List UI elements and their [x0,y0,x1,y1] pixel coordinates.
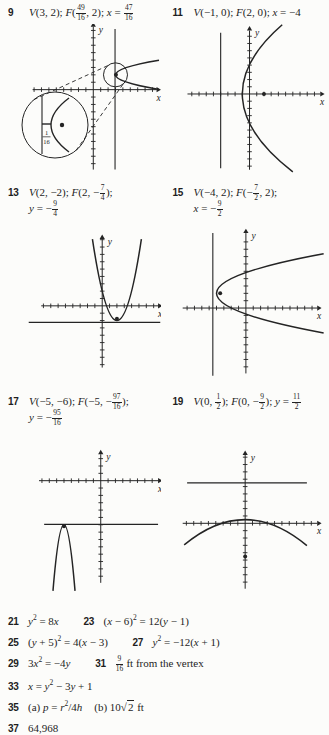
answers-line-37: 3764,968 [8,721,329,735]
math-exponent: 2 [64,699,68,708]
answer-item-11: 11 V(−1, 0); F(2, 0); x = −4 [173,5,329,20]
answer-item-25: 25(y + 5)2 = 4(x − 3) [8,636,108,648]
math-exponent: 2 [157,634,161,643]
math-exponent: 2 [33,613,37,622]
fraction-denominator: 2 [259,403,265,410]
x-axis-label: x [157,309,161,319]
math-variable: V [194,395,201,407]
answer-item-23: 23(x − 6)2 = 12(y − 1) [84,615,189,627]
math-variable: x [107,6,112,18]
fraction-denominator: 16 [116,665,124,672]
parabola-curve [53,525,75,591]
math-fraction: 4716 [124,5,134,21]
fraction-denominator: 2 [215,403,221,410]
math-variable: F [78,395,85,407]
graph-11-svg: xy [168,24,326,174]
y-axis-label: y [250,231,256,241]
answer-math-23: (x − 6)2 = 12(y − 1) [104,615,189,627]
x-axis-label: x [319,97,325,107]
focus-dot [62,524,66,528]
problem-number-19: 19 [173,394,190,409]
answers-line-35: 35(a) p = r2/4h(b) 10√2 ft [8,700,329,714]
problem-number-35: 35 [8,700,22,714]
answer-math-17-line2: y = −9516 [29,410,129,426]
answer-item-35: 35(a) p = r2/4h(b) 10√2 ft [8,701,144,713]
answer-math-27: y2 = −12(x + 1) [153,636,220,648]
x-axis-label: x [156,93,162,103]
math-variable: x [54,615,59,627]
graph-9: xy116 [3,24,161,174]
inset-focus-dot [60,123,64,127]
math-variable: y [66,657,71,669]
answer-math-13-line2: y = −94 [29,201,113,217]
math-variable: y [163,615,168,627]
math-variable: h [77,701,83,713]
math-variable: V [29,395,36,407]
x-axis-arrow [320,91,324,96]
graphs-row-3: xy xy [0,441,329,607]
math-variable: V [29,186,36,198]
problem-number-33: 33 [8,679,22,693]
y-axis-arrow [243,229,248,233]
math-variable: F [72,186,79,198]
math-variable: F [236,6,243,18]
graph-13-svg: xy [3,225,161,387]
answer-math-21: y2 = 8x [28,615,59,627]
graph-19-svg: xy [168,441,326,603]
y-axis-label: y [249,453,255,463]
answer-math-19: V(0, 12); F(0, −92); y = 112 [194,394,302,410]
x-axis-arrow [158,303,161,308]
y-axis-arrow [247,26,252,30]
math-variable: x [82,636,87,648]
math-fraction: 74 [100,185,106,201]
answers-row-3: 17 V(−5, −6); F(−5, −9716); y = −9516 19… [0,394,329,426]
parabola-curve [216,254,323,333]
x-axis-arrow [317,521,321,526]
math-fraction: 916 [116,656,124,672]
answers-line-29-31: 293x2 = −4y 31916 ft from the vertex [8,656,329,672]
x-axis-arrow [158,478,161,483]
focus-dot [262,92,266,96]
answer-math-17-line1: V(−5, −6); F(−5, −9716); [29,394,129,410]
math-variable: V [29,6,36,18]
graphs-row-2: xy xy [0,225,329,391]
math-variable: V [194,186,201,198]
math-fraction: 9716 [112,394,122,410]
math-variable: x [194,202,199,214]
answers-line-25-27: 25(y + 5)2 = 4(x − 3) 27y2 = −12(x + 1) [8,635,329,649]
answer-item-33: 33x = y2 − 3y + 1 [8,680,93,692]
math-exponent: 2 [38,655,42,664]
x-axis-label: x [157,484,161,494]
math-variable: V [194,6,201,18]
graphs-row-1: xy116 xy [0,24,329,176]
answer-math-31: 916 ft from the vertex [115,657,204,669]
answers-page: 9 V(3, 2); F(4916, 2); x = 4716 11 V(−1,… [0,0,329,735]
answer-math-9: V(3, 2); F(4916, 2); x = 4716 [29,5,134,21]
answer-item-21: 21y2 = 8x [8,615,59,627]
problem-number-25: 25 [8,635,22,649]
inset-gap-label-numerator: 1 [45,129,48,136]
answers-row-2: 13 V(2, −2); F(2, −74); y = −94 15 V(−4,… [0,185,329,217]
fraction-denominator: 16 [124,14,134,21]
fraction-denominator: 4 [100,194,106,201]
math-variable: y [275,395,280,407]
math-radical: √2 [121,700,135,713]
math-fraction: 72 [253,185,259,201]
math-fraction: 4916 [76,5,86,21]
answer-item-29: 293x2 = −4y [8,657,70,669]
problem-number-11: 11 [173,5,190,20]
graph-19: xy [168,441,326,603]
math-exponent: 2 [57,634,61,643]
answers-bottom-block: 21y2 = 8x 23(x − 6)2 = 12(y − 1) 25(y + … [0,614,329,735]
answer-math-25: (y + 5)2 = 4(x − 3) [28,636,108,648]
zoom-dashed-line [34,66,108,100]
math-variable: y [29,202,34,214]
answer-item-15: 15 V(−4, 2); F(−72, 2); x = −92 [173,185,329,217]
graph-13: xy [3,225,161,387]
graph-9-svg: xy116 [3,24,161,174]
zoom-dashed-line [76,84,123,150]
answer-math-13-line1: V(2, −2); F(2, −74); [29,185,113,201]
problem-number-23: 23 [84,614,98,628]
answer-item-13: 13 V(2, −2); F(2, −74); y = −94 [8,185,165,217]
x-axis-arrow [317,305,321,310]
